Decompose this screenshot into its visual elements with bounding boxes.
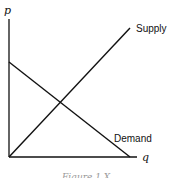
supply-label: Supply — [136, 23, 167, 34]
demand-curve — [9, 62, 130, 157]
x-axis-label: q — [142, 151, 149, 164]
supply-demand-diagram: p q Supply Demand Figure 1.X — [0, 0, 169, 178]
figure-caption: Figure 1.X — [61, 172, 111, 178]
y-axis-label: p — [4, 4, 11, 17]
supply-curve — [9, 28, 130, 157]
demand-label: Demand — [114, 133, 152, 144]
